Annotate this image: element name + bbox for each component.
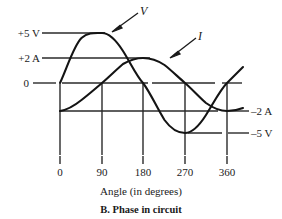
figure-caption: B. Phase in circuit xyxy=(0,205,282,216)
curve-label-v: V xyxy=(140,5,147,17)
x-tick-label-360: 360 xyxy=(212,167,242,178)
i-annotation-arrow xyxy=(170,38,196,58)
axis-label-minus-2a: –2 A xyxy=(251,106,272,117)
current-curve xyxy=(60,58,243,111)
x-tick-label-0: 0 xyxy=(45,167,75,178)
axis-label-plus-5v: +5 V xyxy=(6,28,40,39)
x-tick-label-270: 270 xyxy=(170,167,200,178)
axis-label-zero: 0 xyxy=(6,78,29,89)
axis-label-minus-5v: –5 V xyxy=(251,128,273,139)
curve-label-i: I xyxy=(198,30,202,42)
v-annotation-arrow xyxy=(112,13,138,32)
x-axis-ticks xyxy=(60,156,227,164)
x-axis-title: Angle (in degrees) xyxy=(0,186,282,197)
axis-label-plus-2a: +2 A xyxy=(6,53,40,64)
phase-in-circuit-figure: +5 V +2 A 0 –2 A –5 V V I 0 90 180 270 3… xyxy=(0,0,282,219)
x-tick-label-180: 180 xyxy=(128,167,158,178)
x-tick-label-90: 90 xyxy=(87,167,117,178)
